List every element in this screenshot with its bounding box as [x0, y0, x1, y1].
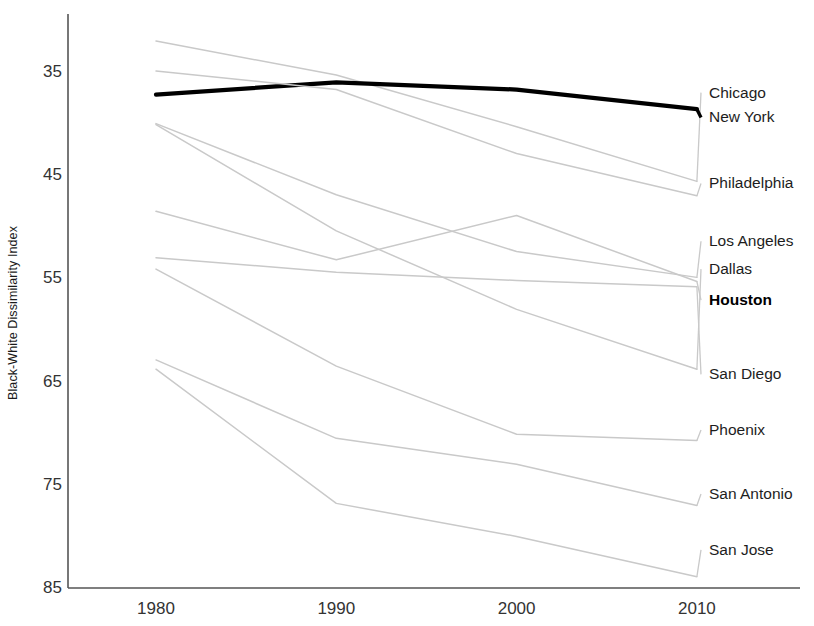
leader-san-jose: [697, 550, 701, 577]
series-line-new-york: [156, 82, 697, 109]
series-label-los-angeles: Los Angeles: [709, 233, 793, 249]
series-label-phoenix: Phoenix: [709, 422, 765, 438]
series-line-chicago: [156, 41, 697, 181]
chart-figure: Black-White Dissimilarity Index 85756555…: [0, 0, 814, 626]
series-lines: [156, 41, 697, 577]
series-label-houston: Houston: [709, 292, 772, 308]
leader-san-antonio: [697, 494, 701, 505]
series-label-san-diego: San Diego: [709, 366, 781, 382]
label-leader-lines: [697, 93, 701, 577]
series-label-san-jose: San Jose: [709, 542, 774, 558]
series-label-chicago: Chicago: [709, 85, 766, 101]
axis-lines: [68, 14, 800, 588]
series-line-los-angeles: [156, 124, 697, 278]
series-line-san-antonio: [156, 360, 697, 506]
series-label-philadelphia: Philadelphia: [709, 175, 793, 191]
plot-area: [0, 0, 814, 626]
series-label-san-antonio: San Antonio: [709, 486, 793, 502]
leader-philadelphia: [697, 183, 701, 195]
leader-chicago: [697, 93, 701, 182]
series-label-new-york: New York: [709, 109, 774, 125]
series-line-san-diego: [156, 258, 697, 287]
series-label-dallas: Dallas: [709, 261, 752, 277]
series-line-phoenix: [156, 269, 697, 440]
series-line-houston: [156, 211, 697, 281]
leader-phoenix: [697, 430, 701, 440]
series-line-dallas: [156, 125, 697, 370]
